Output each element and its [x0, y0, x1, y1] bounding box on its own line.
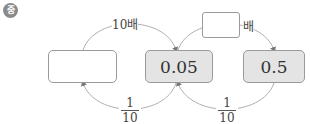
fraction-numerator: 1	[119, 97, 141, 109]
fraction-right: 1 10	[216, 97, 238, 124]
label-times-10: 10배	[112, 15, 138, 32]
value-box-middle: 0.05	[145, 50, 213, 83]
answer-box-multiplier[interactable]	[202, 12, 240, 38]
answer-box-left[interactable]	[48, 50, 117, 83]
fraction-denominator: 10	[119, 112, 141, 124]
label-times-suffix: 배	[243, 17, 254, 34]
fraction-denominator: 10	[216, 112, 238, 124]
fraction-numerator: 1	[216, 97, 238, 109]
fraction-left: 1 10	[119, 97, 141, 124]
value-box-right: 0.5	[243, 50, 305, 83]
difficulty-badge: 중	[3, 3, 18, 18]
